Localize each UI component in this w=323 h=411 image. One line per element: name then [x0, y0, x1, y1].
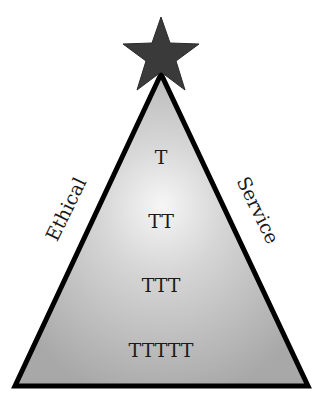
tier-label-4: TTTTT — [129, 339, 194, 361]
side-label-left: Ethical — [41, 174, 91, 245]
side-label-right: Service — [233, 173, 284, 247]
tier-label-2: TT — [148, 210, 174, 232]
tier-label-1: T — [155, 146, 168, 168]
tier-label-3: TTT — [142, 274, 181, 296]
pyramid-diagram: T TT TTT TTTTT Ethical Service — [0, 0, 323, 411]
